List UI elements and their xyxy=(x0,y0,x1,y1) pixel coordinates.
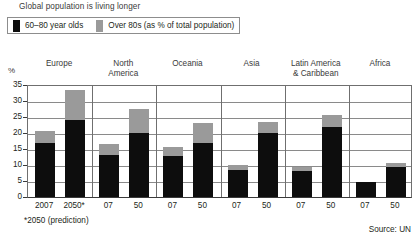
bar-segment-60-80 xyxy=(322,127,342,197)
bar-segment-over-80 xyxy=(258,122,278,133)
bar-stack xyxy=(258,122,278,197)
bar-segment-over-80 xyxy=(99,144,119,155)
chart-legend: 60–80 year olds Over 80s (as % of total … xyxy=(7,17,240,34)
bar-stack xyxy=(356,182,376,197)
bar-segment-60-80 xyxy=(386,167,406,197)
bar-segment-60-80 xyxy=(163,156,183,197)
legend-swatch-over-80-icon xyxy=(96,20,103,32)
plot-area xyxy=(27,85,412,198)
panel-title-line: America xyxy=(83,69,163,79)
legend-label-60-80: 60–80 year olds xyxy=(25,21,83,30)
bar-segment-over-80 xyxy=(193,123,213,142)
bar-segment-over-80 xyxy=(163,147,183,156)
chart-title: Global population is living longer xyxy=(19,2,140,11)
bar-segment-over-80 xyxy=(129,109,149,133)
bar-segment-60-80 xyxy=(65,120,85,197)
legend-label-over-80: Over 80s (as % of total population) xyxy=(108,21,234,30)
chart-panel xyxy=(349,86,413,197)
bar-stack xyxy=(386,163,406,197)
y-tick-label: 0 xyxy=(2,192,22,201)
bar-stack xyxy=(163,147,183,197)
bar-stack xyxy=(322,115,342,197)
y-axis-unit-label: % xyxy=(8,66,15,75)
bar-stack xyxy=(193,123,213,197)
y-tick-label: 15 xyxy=(2,144,22,153)
y-tick-label: 10 xyxy=(2,160,22,169)
panel-title-line: Africa xyxy=(340,59,418,69)
y-tick-label: 30 xyxy=(2,96,22,105)
bar-stack xyxy=(129,109,149,197)
bar-segment-60-80 xyxy=(193,143,213,197)
bar-stack xyxy=(228,165,248,197)
y-tick-label: 25 xyxy=(2,112,22,121)
bar-segment-60-80 xyxy=(35,143,55,197)
chart-panel xyxy=(221,86,285,197)
legend-item-over-80: Over 80s (as % of total population) xyxy=(96,20,234,32)
chart-panel xyxy=(28,86,92,197)
chart-panel xyxy=(156,86,220,197)
legend-swatch-60-80-icon xyxy=(13,20,20,32)
bar-stack xyxy=(292,167,312,197)
bar-stack xyxy=(65,90,85,197)
bar-stack xyxy=(35,131,55,197)
bar-segment-over-80 xyxy=(35,131,55,143)
panel-title-line: & Caribbean xyxy=(276,69,356,79)
bar-segment-60-80 xyxy=(292,171,312,197)
y-tick-label: 35 xyxy=(2,80,22,89)
bar-segment-over-80 xyxy=(65,90,85,120)
bar-segment-60-80 xyxy=(258,133,278,197)
bar-segment-60-80 xyxy=(99,155,119,197)
legend-item-60-80: 60–80 year olds xyxy=(13,20,83,32)
chart-source: Source: UN xyxy=(369,225,411,234)
chart-panel xyxy=(92,86,156,197)
bar-segment-over-80 xyxy=(322,115,342,126)
bar-stack xyxy=(99,144,119,197)
y-tick-label: 20 xyxy=(2,128,22,137)
panel-title: Africa xyxy=(340,59,418,69)
bar-segment-60-80 xyxy=(228,170,248,197)
y-tick-label: 5 xyxy=(2,176,22,185)
chart-panel xyxy=(285,86,349,197)
bar-segment-60-80 xyxy=(356,182,376,197)
x-tick-label: 50 xyxy=(370,201,418,210)
chart-footnote: *2050 (prediction) xyxy=(24,216,89,225)
bar-segment-60-80 xyxy=(129,133,149,197)
